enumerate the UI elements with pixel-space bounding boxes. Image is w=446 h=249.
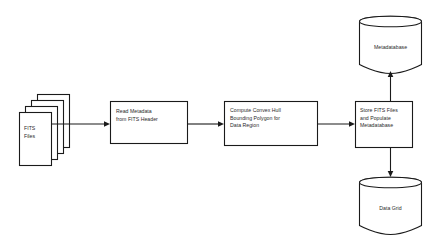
edge-store-to-datagrid [388, 148, 394, 178]
label-metadatabase: Metadatabase [359, 44, 422, 52]
label-compute-convex-hull: Compute Convex Hull Bounding Polygon for… [230, 107, 318, 130]
edge-compute-to-store [318, 121, 356, 127]
label-fits-files: FITS Files [24, 125, 52, 140]
edge-store-to-metadatabase [388, 71, 394, 101]
edge-read-to-compute [188, 121, 225, 127]
data-grid-top-ellipse [360, 177, 422, 188]
label-data-grid: Data Grid [359, 205, 422, 213]
diagram-canvas: FITS Files Read Metadata from FITS Heade… [0, 0, 446, 249]
label-store-fits-files: Store FITS Files and Populate Metadataba… [360, 107, 414, 130]
metadatabase-top-ellipse [360, 16, 422, 27]
label-read-metadata: Read Metadata from FITS Header [116, 108, 186, 123]
